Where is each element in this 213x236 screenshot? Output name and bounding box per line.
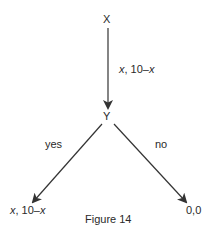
edge-label-sep: , 10–	[125, 63, 149, 75]
edge-label-no: no	[155, 138, 167, 150]
node-x: X	[103, 13, 110, 25]
leaf-no-payoff: 0,0	[186, 204, 201, 216]
edge-label-x-to-y: x, 10–x	[119, 63, 154, 75]
edge-y-to-no	[114, 124, 186, 202]
edge-label-var-x2: x	[149, 63, 155, 75]
node-y: Y	[103, 110, 110, 122]
leaf-yes-payoff: x, 10–x	[10, 204, 45, 216]
payoff-sep: , 10–	[16, 204, 40, 216]
edge-y-to-yes	[33, 124, 102, 202]
figure-caption: Figure 14	[85, 213, 131, 225]
edge-label-yes: yes	[45, 138, 62, 150]
payoff-var-x2: x	[40, 204, 46, 216]
